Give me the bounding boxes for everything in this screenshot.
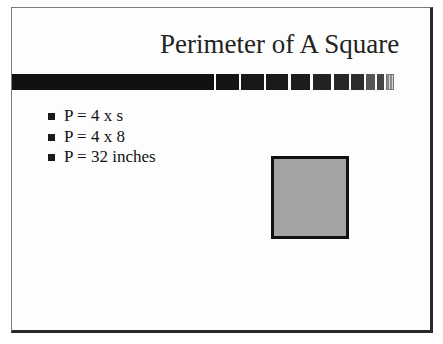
bar-segment — [313, 74, 331, 90]
square-illustration — [271, 156, 349, 239]
square-bullet-icon — [48, 134, 55, 141]
bullet-item: P = 32 inches — [48, 147, 156, 168]
bar-segment — [351, 74, 364, 90]
bar-segment — [377, 74, 384, 90]
slide-title: Perimeter of A Square — [160, 28, 396, 60]
square-bullet-icon — [48, 154, 55, 161]
bullet-text: P = 4 x 8 — [64, 127, 125, 146]
bullet-list: P = 4 x s P = 4 x 8 P = 32 inches — [48, 106, 156, 168]
bar-segment — [366, 74, 375, 90]
bullet-text: P = 32 inches — [64, 147, 156, 166]
bar-segment — [216, 74, 239, 90]
bar-segment — [291, 74, 310, 90]
square-bullet-icon — [48, 113, 55, 120]
title-underline-bar — [12, 74, 214, 90]
bar-segment — [266, 74, 288, 90]
bullet-item: P = 4 x 8 — [48, 127, 156, 148]
bar-segment — [241, 74, 264, 90]
bullet-text: P = 4 x s — [64, 106, 123, 125]
bar-segment — [386, 74, 394, 90]
bullet-item: P = 4 x s — [48, 106, 156, 127]
bar-segment — [334, 74, 349, 90]
